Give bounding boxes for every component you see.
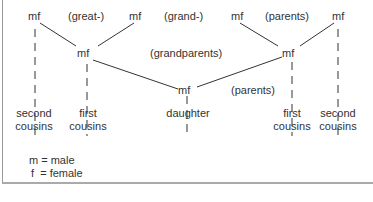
line-ggp-left: [40, 23, 76, 46]
node-ggp-midleft: mf: [129, 10, 141, 22]
label-grandparents: (grandparents): [150, 47, 222, 59]
label-first-cousins-left-1: first: [62, 107, 114, 119]
node-parent: mf: [178, 84, 190, 96]
label-second-cousins-right-1: second: [312, 107, 364, 119]
legend-female: f = female: [31, 167, 83, 179]
line-gp-left: [93, 60, 178, 89]
label-second-cousins-right-2: cousins: [312, 120, 364, 132]
label-parents: (parents): [231, 84, 275, 96]
node-ggp-left: mf: [28, 10, 40, 22]
node-gp-right: mf: [282, 47, 294, 59]
line-ggp-midleft: [98, 23, 134, 46]
label-second-cousins-left-1: second: [8, 107, 60, 119]
label-grand: (grand-): [164, 10, 203, 22]
label-first-cousins-left-2: cousins: [62, 120, 114, 132]
line-gp-right: [197, 57, 282, 87]
label-daughter: daughter: [160, 107, 216, 119]
line-ggp-right: [300, 23, 334, 46]
clipped-caption: [0, 196, 364, 202]
line-ggp-midright: [240, 23, 278, 46]
label-first-cousins-right-2: cousins: [266, 120, 318, 132]
label-great: (great-): [68, 10, 104, 22]
label-second-cousins-left-2: cousins: [8, 120, 60, 132]
label-parents-top: (parents): [265, 10, 309, 22]
label-first-cousins-right-1: first: [266, 107, 318, 119]
node-gp-left: mf: [77, 47, 89, 59]
node-ggp-midright: mf: [231, 10, 243, 22]
legend-male: m = male: [29, 154, 75, 166]
node-ggp-right: mf: [332, 10, 344, 22]
